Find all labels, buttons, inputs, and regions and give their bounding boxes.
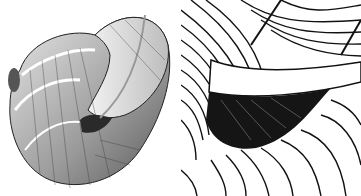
shell-illustration — [0, 0, 180, 196]
aperture-detail-illustration — [181, 0, 361, 196]
aperture-detail-drawing — [181, 0, 361, 196]
shell-drawing — [0, 0, 180, 196]
